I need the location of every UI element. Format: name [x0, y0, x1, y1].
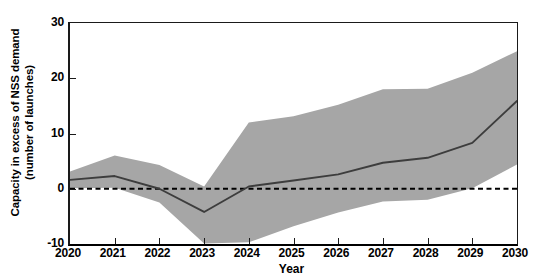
x-tick-label-2026: 2026	[323, 246, 349, 260]
x-tick-mark	[294, 238, 295, 244]
y-axis-title-line-1: Capacity in excess of NSS demand	[10, 29, 22, 217]
x-tick-mark	[159, 238, 160, 244]
y-tick-mark	[70, 189, 76, 190]
y-axis-title-line-2: (number of launches)	[23, 29, 37, 217]
x-tick-mark	[338, 238, 339, 244]
uncertainty-band	[70, 51, 517, 243]
y-axis-tick-labels: -100102030	[40, 0, 64, 280]
y-tick-label-20: 20	[40, 70, 64, 84]
y-tick-label-0: 0	[40, 181, 64, 195]
x-tick-mark	[428, 238, 429, 244]
y-tick-label-10: 10	[40, 126, 64, 140]
x-axis-title: Year	[68, 262, 515, 276]
x-tick-label-2023: 2023	[189, 246, 215, 260]
x-axis-tick-labels: 2020202120222023202420252026202720282029…	[68, 246, 515, 262]
x-tick-label-2024: 2024	[234, 246, 260, 260]
x-tick-mark	[115, 238, 116, 244]
y-tick-mark	[70, 134, 76, 135]
y-tick-label-30: 30	[40, 15, 64, 29]
x-tick-label-2025: 2025	[279, 246, 305, 260]
x-tick-label-2030: 2030	[502, 246, 528, 260]
x-tick-mark	[472, 238, 473, 244]
x-tick-mark	[383, 238, 384, 244]
x-tick-mark	[204, 238, 205, 244]
chart-canvas	[70, 23, 517, 244]
x-tick-label-2021: 2021	[100, 246, 126, 260]
y-tick-mark	[70, 78, 76, 79]
x-tick-label-2029: 2029	[457, 246, 483, 260]
plot-area	[68, 22, 518, 246]
x-tick-label-2028: 2028	[413, 246, 439, 260]
chart-figure: Capacity in excess of NSS demand (number…	[0, 0, 549, 280]
x-tick-mark	[249, 238, 250, 244]
x-tick-label-2020: 2020	[55, 246, 81, 260]
x-tick-label-2027: 2027	[368, 246, 394, 260]
x-tick-label-2022: 2022	[144, 246, 170, 260]
